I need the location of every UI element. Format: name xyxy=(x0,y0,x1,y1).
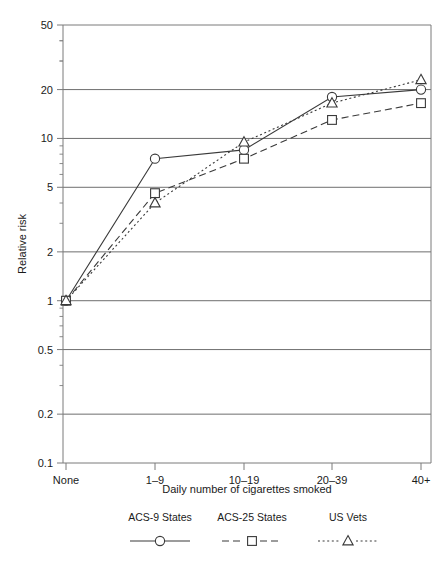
y-tick-label-0.1: 0.1 xyxy=(38,457,53,469)
triangle-marker-icon xyxy=(343,536,353,545)
data-point xyxy=(151,189,160,198)
y-axis-tick-labels: 5020105210.50.20.1 xyxy=(38,19,53,469)
legend-label: ACS-25 States xyxy=(217,511,286,523)
data-point xyxy=(328,116,337,125)
x-tick-label-0: None xyxy=(53,474,79,486)
y-tick-label-20: 20 xyxy=(41,84,53,96)
data-point xyxy=(150,154,159,163)
data-point xyxy=(417,99,426,108)
square-marker-icon xyxy=(248,537,257,546)
y-tick-label-5: 5 xyxy=(47,181,53,193)
y-axis-title: Relative risk xyxy=(16,214,28,274)
legend-label: US Vets xyxy=(329,511,367,523)
y-tick-label-1: 1 xyxy=(47,295,53,307)
relative-risk-log-line-chart: 5020105210.50.20.1 None1–910–1920–3940+ … xyxy=(0,0,448,564)
y-tick-label-0.2: 0.2 xyxy=(38,408,53,420)
legend-item-us-vets[interactable]: US Vets xyxy=(318,511,378,545)
y-tick-label-2: 2 xyxy=(47,246,53,258)
legend-label: ACS-9 States xyxy=(128,511,192,523)
y-axis-tickmarks xyxy=(57,25,63,463)
x-axis-tickmarks xyxy=(66,463,421,470)
legend-item-acs-9-states[interactable]: ACS-9 States xyxy=(128,511,192,546)
circle-marker-icon xyxy=(155,536,164,545)
y-tick-label-50: 50 xyxy=(41,19,53,31)
data-point xyxy=(239,145,248,154)
chart-figure: 5020105210.50.20.1 None1–910–1920–3940+ … xyxy=(0,0,448,564)
data-point xyxy=(240,154,249,163)
minor-tickmarks xyxy=(60,41,64,386)
legend-item-acs-25-states[interactable]: ACS-25 States xyxy=(217,511,286,545)
plot-background xyxy=(63,25,431,463)
y-tick-label-10: 10 xyxy=(41,132,53,144)
x-tick-label-4: 40+ xyxy=(412,474,431,486)
data-point xyxy=(416,85,425,94)
x-axis-title: Daily number of cigarettes smoked xyxy=(162,483,331,495)
y-tick-label-0.5: 0.5 xyxy=(38,344,53,356)
chart-legend: ACS-9 StatesACS-25 StatesUS Vets xyxy=(128,511,378,546)
